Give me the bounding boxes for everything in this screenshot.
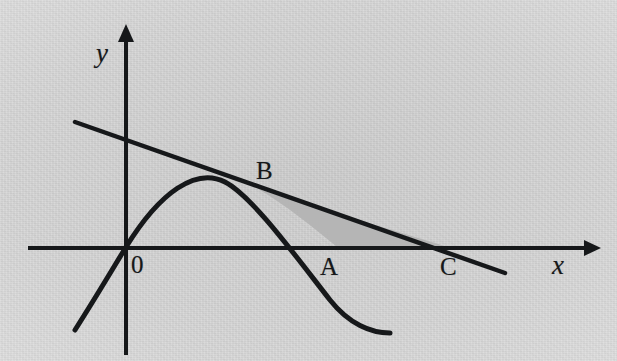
parabola-curve [75,178,390,333]
x-axis-arrowhead-icon [584,240,601,256]
math-figure: y x 0 A B C [0,0,617,361]
figure-canvas [0,0,617,361]
point-label-c: C [440,254,457,279]
point-label-origin: 0 [131,252,144,277]
x-axis-label: x [552,252,564,279]
point-label-a: A [320,254,338,279]
y-axis-label: y [96,40,108,67]
point-label-b: B [256,158,273,183]
y-axis-arrowhead-icon [118,24,134,42]
